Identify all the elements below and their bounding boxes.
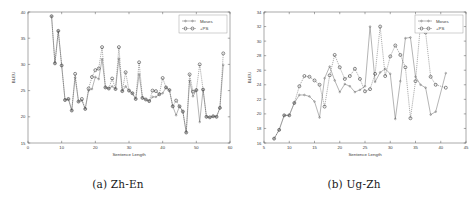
series-ps-marker (369, 88, 372, 91)
series-moses-line (274, 27, 446, 139)
series-ps-marker (333, 53, 336, 56)
x-tick-label: 20 (93, 145, 98, 150)
legend-label: +PS (200, 26, 208, 31)
subfigure-b: 5101520253035404516182022242628303234Sen… (236, 0, 472, 211)
y-tick-label: 35 (21, 36, 26, 41)
x-tick-label: 0 (27, 145, 30, 150)
x-tick-label: 30 (127, 145, 132, 150)
series-ps-marker (358, 77, 361, 80)
figure-container: 0102030405060152025303540Sentence Length… (0, 0, 472, 211)
x-tick-label: 20 (337, 145, 342, 150)
series-ps-marker (94, 69, 97, 72)
y-axis-title: BLEU (11, 72, 16, 83)
plot-area-b: 5101520253035404516182022242628303234Sen… (236, 0, 472, 172)
x-tick-label: 40 (160, 145, 165, 150)
series-ps-marker (444, 86, 447, 89)
y-tick-label: 16 (257, 141, 262, 146)
x-axis-title: Sentence Length (348, 152, 382, 157)
caption-a: (a) Zh-En (92, 178, 144, 190)
legend-label: +PS (436, 26, 444, 31)
y-tick-label: 32 (257, 24, 262, 29)
legend-label: Moses (436, 19, 449, 24)
x-tick-label: 45 (464, 145, 469, 150)
x-tick-label: 50 (194, 145, 199, 150)
y-tick-label: 30 (257, 39, 262, 44)
y-axis-title: BLEU (247, 72, 252, 83)
series-ps-line (274, 24, 446, 139)
x-axis-title: Sentence Length (112, 152, 146, 157)
y-tick-label: 24 (257, 82, 262, 87)
legend-label: Moses (200, 19, 213, 24)
series-ps-marker (111, 77, 114, 80)
y-tick-label: 40 (21, 10, 26, 15)
x-tick-label: 15 (312, 145, 317, 150)
x-tick-label: 10 (59, 145, 64, 150)
y-tick-label: 22 (257, 97, 262, 102)
x-tick-label: 30 (388, 145, 393, 150)
y-tick-label: 30 (21, 62, 26, 67)
chart-zh-en: 0102030405060152025303540Sentence Length… (0, 0, 236, 172)
series-moses-line (52, 16, 224, 132)
y-tick-label: 20 (21, 114, 26, 119)
series-ps-marker (434, 83, 437, 86)
y-tick-label: 34 (257, 10, 262, 15)
y-tick-label: 20 (257, 111, 262, 116)
x-tick-label: 60 (228, 145, 233, 150)
x-tick-label: 40 (438, 145, 443, 150)
chart-ug-zh: 5101520253035404516182022242628303234Sen… (236, 0, 472, 172)
y-tick-label: 15 (21, 141, 26, 146)
y-tick-label: 28 (257, 53, 262, 58)
plot-area-a: 0102030405060152025303540Sentence Length… (0, 0, 236, 172)
y-tick-label: 25 (21, 88, 26, 93)
x-tick-label: 35 (413, 145, 418, 150)
x-tick-label: 5 (263, 145, 266, 150)
subfigure-a: 0102030405060152025303540Sentence Length… (0, 0, 236, 211)
y-tick-label: 18 (257, 126, 262, 131)
series-ps-line (52, 16, 224, 132)
caption-b: (b) Ug-Zh (327, 178, 380, 190)
x-tick-label: 25 (363, 145, 368, 150)
y-tick-label: 26 (257, 68, 262, 73)
x-tick-label: 10 (287, 145, 292, 150)
